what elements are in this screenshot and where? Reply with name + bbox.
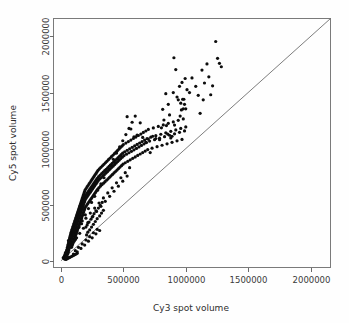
data-point xyxy=(157,125,160,128)
data-point xyxy=(99,182,102,185)
data-point xyxy=(67,239,70,242)
data-point xyxy=(165,124,168,127)
data-point xyxy=(211,84,214,87)
data-point xyxy=(161,108,164,111)
data-point xyxy=(175,139,178,142)
data-point xyxy=(84,217,87,220)
plot-canvas: 0500000100000015000002000000 05000001000… xyxy=(0,0,349,323)
data-point xyxy=(185,88,188,91)
data-point xyxy=(94,220,97,223)
data-point xyxy=(65,255,68,258)
data-point xyxy=(96,228,99,231)
data-point xyxy=(126,174,129,177)
data-point xyxy=(141,136,144,139)
data-point xyxy=(75,236,78,239)
y-axis-tick-labels: 0500000100000015000002000000 xyxy=(41,18,51,265)
data-point xyxy=(99,204,102,207)
y-tick-label: 0 xyxy=(41,259,51,264)
data-point xyxy=(132,135,135,138)
data-point xyxy=(112,158,115,161)
x-tick-label: 2000000 xyxy=(293,275,331,285)
data-point xyxy=(202,98,205,101)
data-point xyxy=(166,132,169,135)
data-point xyxy=(121,180,124,183)
x-axis-tick-labels: 0500000100000015000002000000 xyxy=(59,275,331,285)
data-point xyxy=(182,98,185,101)
data-point xyxy=(154,134,157,137)
x-tick-label: 500000 xyxy=(107,275,139,285)
data-point xyxy=(124,133,127,136)
data-point xyxy=(182,117,185,120)
data-point xyxy=(188,91,191,94)
data-point xyxy=(167,103,170,106)
data-point xyxy=(92,231,95,234)
data-point xyxy=(173,123,176,126)
data-point xyxy=(152,126,155,129)
data-point xyxy=(115,181,118,184)
data-point xyxy=(180,81,183,84)
data-point xyxy=(117,185,120,188)
data-point xyxy=(100,212,103,215)
data-point xyxy=(111,186,114,189)
data-point xyxy=(160,144,163,147)
data-point xyxy=(89,218,92,221)
data-point xyxy=(150,147,153,150)
data-point xyxy=(85,233,88,236)
data-point xyxy=(172,91,175,94)
y-tick-label: 1500000 xyxy=(41,75,51,113)
data-point xyxy=(165,142,168,145)
data-point xyxy=(128,166,131,169)
data-point xyxy=(97,206,100,209)
data-point xyxy=(159,133,162,136)
data-point xyxy=(96,217,99,220)
data-point xyxy=(183,129,186,132)
y-tick-label: 2000000 xyxy=(41,18,51,56)
data-point xyxy=(84,213,87,216)
data-point xyxy=(203,81,206,84)
data-point xyxy=(77,246,80,249)
data-point xyxy=(207,75,210,78)
data-point xyxy=(92,223,95,226)
data-point xyxy=(158,138,161,141)
data-point xyxy=(174,128,177,131)
data-point xyxy=(164,92,167,95)
data-point xyxy=(160,126,163,129)
data-point xyxy=(169,130,172,133)
x-axis-label: Cy3 spot volume xyxy=(153,303,229,313)
data-point xyxy=(179,102,182,105)
data-point xyxy=(94,209,97,212)
data-point xyxy=(218,62,221,65)
data-point xyxy=(205,62,208,65)
data-point xyxy=(106,191,109,194)
data-point xyxy=(177,98,180,101)
data-point xyxy=(134,114,137,117)
data-point xyxy=(81,242,84,245)
data-point xyxy=(129,127,132,130)
data-point xyxy=(102,176,105,179)
data-point xyxy=(172,56,175,59)
data-point xyxy=(183,103,186,106)
data-point xyxy=(194,85,197,88)
data-point xyxy=(216,57,219,60)
data-point xyxy=(115,151,118,154)
data-point xyxy=(200,68,203,71)
data-point xyxy=(96,189,99,192)
data-point xyxy=(175,95,178,98)
data-point xyxy=(121,139,124,142)
data-point xyxy=(184,77,187,80)
data-point xyxy=(72,233,75,236)
data-point xyxy=(151,135,154,138)
data-point xyxy=(78,232,81,235)
data-point xyxy=(180,138,183,141)
data-point xyxy=(184,125,187,128)
data-point xyxy=(170,141,173,144)
data-point xyxy=(178,85,181,88)
data-point xyxy=(131,121,134,124)
data-point xyxy=(92,212,95,215)
data-point xyxy=(87,207,90,210)
data-point xyxy=(214,40,217,43)
data-point xyxy=(101,201,104,204)
data-point xyxy=(76,252,79,255)
data-point xyxy=(109,164,112,167)
data-point xyxy=(93,195,96,198)
